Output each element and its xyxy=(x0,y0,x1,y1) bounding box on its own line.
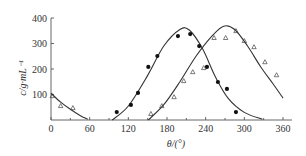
filled-circle-point xyxy=(136,91,140,95)
x-tick-label: 120 xyxy=(121,123,136,134)
fit-curve-0 xyxy=(112,28,262,120)
y-tick-label: 300 xyxy=(32,38,47,49)
x-axis-title: θ/(°) xyxy=(167,138,186,150)
y-tick-label: 400 xyxy=(32,13,47,24)
x-tick-label: 240 xyxy=(198,123,213,134)
fit-curves xyxy=(51,26,283,120)
filled-circle-point xyxy=(234,110,238,114)
filled-circle-point xyxy=(115,110,119,114)
triangle-point xyxy=(274,73,278,77)
y-axis-title: c/g·mL⁻¹ xyxy=(17,60,28,96)
x-tick-label: 360 xyxy=(276,123,291,134)
x-tick-label: 300 xyxy=(237,123,252,134)
triangle-point xyxy=(263,60,267,64)
filled-circle-point xyxy=(197,44,201,48)
triangle-point xyxy=(191,70,195,74)
triangle-point xyxy=(149,111,153,115)
filled-circle-point xyxy=(216,80,220,84)
fit-curve-1 xyxy=(51,93,88,119)
x-tick-label: 180 xyxy=(160,123,175,134)
filled-circle-point xyxy=(225,87,229,91)
triangle-point xyxy=(71,106,75,110)
x-tick-label: 60 xyxy=(85,123,95,134)
triangle-point xyxy=(252,45,256,49)
filled-circle-point xyxy=(155,54,159,58)
filled-circle-point xyxy=(188,32,192,36)
triangle-point xyxy=(58,104,62,108)
triangle-point xyxy=(182,79,186,83)
chart: 060120180240300360 100200300400 c/g·mL⁻¹… xyxy=(0,0,306,156)
filled-circle-point xyxy=(146,65,150,69)
filled-circle-point xyxy=(129,103,133,107)
triangle-point xyxy=(172,95,176,99)
axes xyxy=(51,18,292,120)
y-tick-label: 100 xyxy=(32,89,47,100)
y-tick-label: 200 xyxy=(32,64,47,75)
triangle-point xyxy=(223,35,227,39)
x-tick-label: 0 xyxy=(49,123,54,134)
filled-circle-point xyxy=(176,34,180,38)
